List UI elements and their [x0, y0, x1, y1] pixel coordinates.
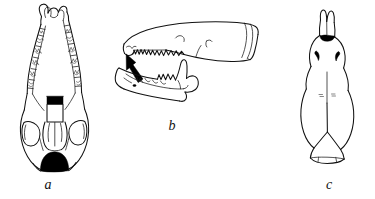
panel-label-a: a [45, 177, 52, 192]
skull-figure: a [0, 0, 375, 199]
figure-container: a [0, 0, 375, 199]
panel-label-b: b [169, 118, 176, 133]
mental-foramen [133, 85, 136, 87]
panel-label-c: c [326, 177, 333, 192]
mesopterygoid-fossa-black [47, 97, 63, 105]
